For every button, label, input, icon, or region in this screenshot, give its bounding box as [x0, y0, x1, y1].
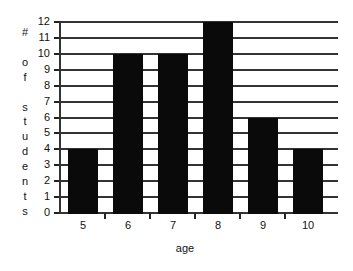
y-axis-line: [59, 22, 61, 214]
bar-9: [248, 118, 278, 214]
bar-7: [158, 54, 188, 214]
y-axis-label-char: o: [18, 55, 32, 70]
x-tick: [104, 213, 106, 219]
y-tick-label: 12: [30, 15, 50, 27]
y-tick-label: 8: [30, 79, 50, 91]
y-axis-label-char: e: [18, 159, 32, 174]
x-tick-label: 8: [203, 219, 233, 231]
gridline: [60, 132, 338, 134]
x-tick-label: 6: [113, 219, 143, 231]
y-axis-label-char: t: [18, 114, 32, 129]
y-tick-label: 9: [30, 63, 50, 75]
y-axis-label-char: s: [18, 204, 32, 219]
bar-5: [68, 149, 98, 214]
x-tick: [284, 213, 286, 219]
y-tick-label: 11: [30, 31, 50, 43]
y-axis-label-char: s: [18, 100, 32, 115]
y-axis-label-char: d: [18, 144, 32, 159]
x-tick-label: 9: [248, 219, 278, 231]
y-axis-label-char: #: [18, 25, 32, 40]
gridline: [60, 101, 338, 103]
y-tick-label: 3: [30, 158, 50, 170]
gridline: [60, 21, 338, 23]
bar-6: [113, 54, 143, 214]
y-tick-label: 1: [30, 190, 50, 202]
y-tick-label: 7: [30, 95, 50, 107]
y-tick-label: 4: [30, 142, 50, 154]
y-tick-label: 6: [30, 111, 50, 123]
y-axis-label-char: n: [18, 174, 32, 189]
y-tick-label: 0: [30, 206, 50, 218]
y-axis-label-char: u: [18, 129, 32, 144]
bar-8: [203, 22, 233, 214]
bar-10: [293, 149, 323, 214]
x-tick: [194, 213, 196, 219]
x-tick-label: 7: [158, 219, 188, 231]
gridline: [60, 53, 338, 55]
x-tick-label: 10: [293, 219, 323, 231]
y-tick-label: 5: [30, 126, 50, 138]
gridline: [60, 69, 338, 71]
y-tick-label: 10: [30, 47, 50, 59]
y-axis-label-char: f: [18, 70, 32, 85]
x-axis-label: age: [165, 242, 205, 254]
y-tick-label: 2: [30, 174, 50, 186]
gridline: [60, 117, 338, 119]
gridline: [60, 85, 338, 87]
x-tick: [149, 213, 151, 219]
x-tick-label: 5: [68, 219, 98, 231]
gridline: [60, 37, 338, 39]
y-axis-label-char: t: [18, 189, 32, 204]
x-tick: [239, 213, 241, 219]
